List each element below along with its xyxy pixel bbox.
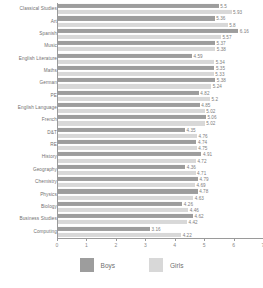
category-label: Biology [3, 204, 57, 209]
bar-girls [57, 196, 193, 200]
bar-girls [57, 183, 195, 187]
y-axis-line [57, 3, 58, 238]
category-label-cell: Spanish [0, 28, 57, 40]
bar-girls [57, 10, 232, 14]
bar-girls [57, 35, 221, 39]
category-label-cell: Business Studies [0, 213, 57, 225]
bar-value-label: 4.35 [185, 127, 196, 132]
x-axis-tick-label: 1 [85, 242, 88, 248]
bar-value-label: 4.26 [182, 201, 193, 206]
bar-value-label: 5.36 [215, 16, 226, 21]
bar-value-label: 4.75 [197, 146, 208, 151]
x-axis-tick [175, 238, 176, 241]
chart-row: Business Studies4.624.42 [0, 213, 263, 225]
category-label: RE [3, 143, 57, 148]
bar-boys [57, 115, 206, 119]
category-label-cell: German [0, 77, 57, 89]
category-label-cell: Geography [0, 164, 57, 176]
category-label: Business Studies [3, 217, 57, 222]
bar-group: 4.794.69 [57, 176, 263, 188]
bar-value-label: 4.79 [198, 177, 209, 182]
bar-value-label: 4.78 [198, 189, 209, 194]
bar-group: 5.365.8 [57, 15, 263, 27]
bar-boys [57, 152, 201, 156]
category-label-cell: Biology [0, 201, 57, 213]
x-axis-rule [57, 238, 263, 239]
bar-boys [57, 165, 185, 169]
bar-group: 5.55.93 [57, 3, 263, 15]
bar-girls [57, 233, 181, 237]
bar-value-label: 5.5 [219, 4, 227, 9]
bar-boys [57, 53, 192, 57]
bar-group: 4.914.72 [57, 151, 263, 163]
bar-girls [57, 84, 211, 88]
bar-value-label: 5.37 [215, 41, 226, 46]
legend-item-boys[interactable]: Boys [80, 258, 115, 272]
bar-girls [57, 72, 214, 76]
bar-value-label: 4.36 [185, 164, 196, 169]
bar-value-label: 5.02 [205, 121, 216, 126]
bar-girls [57, 171, 196, 175]
chart-row: Music5.375.38 [0, 40, 263, 52]
chart-row: D&T4.354.76 [0, 127, 263, 139]
bar-value-label: 3.16 [150, 226, 161, 231]
bar-group: 4.264.46 [57, 201, 263, 213]
category-label-cell: History [0, 151, 57, 163]
bar-value-label: 4.72 [196, 158, 207, 163]
bar-line-girls: 4.22 [57, 232, 263, 238]
category-label: French [3, 118, 57, 123]
category-label: German [3, 81, 57, 86]
category-label-cell: Physics [0, 188, 57, 200]
bar-boys [57, 78, 215, 82]
plot-area: Classical Studies5.55.93Art5.365.8Spanis… [0, 3, 263, 238]
bar-boys [57, 41, 215, 45]
grouped-bar-chart: Classical Studies5.55.93Art5.365.8Spanis… [0, 0, 263, 288]
category-label: D&T [3, 130, 57, 135]
category-label: English Literature [3, 56, 57, 61]
bar-boys [57, 140, 196, 144]
chart-row: Physics4.784.63 [0, 188, 263, 200]
bar-group: 4.354.76 [57, 127, 263, 139]
category-label: Music [3, 44, 57, 49]
bar-value-label: 4.22 [181, 232, 192, 237]
bar-girls [57, 146, 197, 150]
bar-value-label: 5.57 [221, 34, 232, 39]
chart-row: English Literature4.595.34 [0, 52, 263, 64]
bar-value-label: 4.63 [193, 195, 204, 200]
category-label-cell: Maths [0, 65, 57, 77]
legend-label: Girls [170, 262, 183, 269]
bar-group: 4.784.63 [57, 188, 263, 200]
bar-value-label: 4.62 [193, 214, 204, 219]
category-label-cell: PE [0, 90, 57, 102]
bar-value-label: 5.93 [232, 10, 243, 15]
category-label: English Language [3, 106, 57, 111]
bar-boys [57, 189, 198, 193]
bar-group: 4.825.2 [57, 90, 263, 102]
bar-value-label: 5.34 [214, 59, 225, 64]
bar-group: 4.744.75 [57, 139, 263, 151]
chart-row: French5.065.02 [0, 114, 263, 126]
chart-row: Biology4.264.46 [0, 201, 263, 213]
x-axis-tick [204, 238, 205, 241]
x-axis-tick [86, 238, 87, 241]
bar-value-label: 4.71 [196, 170, 207, 175]
legend-swatch-boys [80, 258, 94, 272]
category-label: Art [3, 19, 57, 24]
category-label: Chemistry [3, 180, 57, 185]
bar-girls [57, 47, 215, 51]
bar-value-label: 4.42 [187, 220, 198, 225]
bar-boys [57, 202, 182, 206]
bar-group: 5.355.33 [57, 65, 263, 77]
legend-swatch-girls [149, 258, 163, 272]
bar-group: 5.375.38 [57, 40, 263, 52]
bar-value-label: 5.38 [215, 78, 226, 83]
legend-item-girls[interactable]: Girls [149, 258, 183, 272]
bar-boys [57, 103, 200, 107]
bar-group: 4.364.71 [57, 164, 263, 176]
bar-value-label: 5.38 [215, 47, 226, 52]
category-label-cell: D&T [0, 127, 57, 139]
bar-value-label: 5.06 [206, 115, 217, 120]
category-label: Computing [3, 229, 57, 234]
chart-row: Maths5.355.33 [0, 65, 263, 77]
bar-value-label: 4.85 [200, 102, 211, 107]
